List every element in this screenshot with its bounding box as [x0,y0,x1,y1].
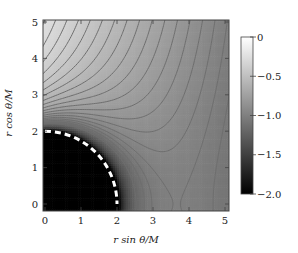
y-tick-label: 2 [32,126,38,137]
colorbar-tick-label: −0.5 [257,71,281,82]
colorbar-ticks: 0−0.5−1.0−1.5−2.0 [250,32,281,200]
y-tick-label: 1 [32,162,38,173]
colorbar-tick-label: −1.5 [257,149,281,160]
y-tick-label: 5 [32,17,38,28]
y-tick-label: 3 [32,89,38,100]
y-tick-label: 4 [32,53,38,64]
colorbar-tick-label: −1.0 [257,110,281,121]
x-tick-label: 5 [222,215,228,226]
x-axis-label: r sin θ/M [113,234,159,245]
plot-area: 012345 012345 [32,15,232,226]
y-tick-label: 0 [32,199,38,210]
x-tick-label: 4 [186,215,192,226]
contour-chart: 012345 012345 r sin θ/M r cos θ/M 0−0.5−… [0,0,298,253]
x-tick-label: 2 [114,215,120,226]
colorbar-tick-label: 0 [257,32,263,43]
x-tick-label: 3 [150,215,156,226]
x-tick-label: 1 [78,215,84,226]
x-tick-label: 0 [42,215,48,226]
colorbar: 0−0.5−1.0−1.5−2.0 [241,32,281,200]
y-axis-label: r cos θ/M [3,88,14,136]
colorbar-tick-label: −2.0 [257,189,281,200]
